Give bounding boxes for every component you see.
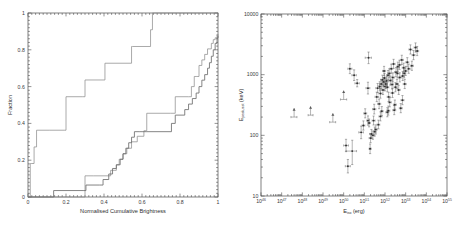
- panel-cumulative-distribution: 00.20.40.60.8100.20.40.60.81Normalised C…: [0, 0, 231, 231]
- svg-text:1049: 1049: [318, 198, 328, 204]
- data-point: [376, 84, 380, 93]
- data-point: [397, 85, 400, 94]
- svg-text:1: 1: [217, 199, 220, 205]
- data-point: [344, 139, 349, 151]
- data-point: [291, 108, 297, 118]
- svg-text:1052: 1052: [380, 198, 390, 204]
- svg-text:1050: 1050: [339, 198, 349, 204]
- data-point: [378, 99, 381, 109]
- svg-text:1055: 1055: [442, 198, 452, 204]
- data-point: [396, 62, 399, 71]
- epeak-eiso-scatter: 1046104710481049105010511052105310541055…: [231, 0, 462, 231]
- cdf-plot: 00.20.40.60.8100.20.40.60.81Normalised C…: [0, 0, 231, 231]
- data-point: [390, 64, 393, 73]
- x-axis-ticks: [261, 14, 447, 196]
- step-curve-2: [28, 36, 218, 197]
- data-point: [345, 159, 350, 172]
- plot-frame: [261, 14, 447, 196]
- svg-text:0: 0: [27, 199, 30, 205]
- data-point: [352, 70, 356, 81]
- data-point: [330, 113, 336, 123]
- x-tick-labels: 1046104710481049105010511052105310541055: [256, 198, 452, 204]
- data-point: [379, 112, 382, 121]
- data-point: [372, 116, 375, 125]
- data-point: [308, 106, 313, 116]
- data-point: [364, 109, 367, 118]
- data-point: [369, 144, 371, 154]
- data-point: [375, 92, 379, 101]
- data-point: [393, 106, 396, 115]
- step-curve-1: [28, 34, 218, 197]
- svg-text:1046: 1046: [256, 198, 266, 204]
- y-tick-labels: 10100100010000: [244, 11, 259, 199]
- svg-text:0.2: 0.2: [18, 157, 25, 163]
- lower-limit-arrow-icon: [331, 113, 334, 116]
- lower-limit-arrow-icon: [309, 106, 312, 109]
- x-tick-labels: 00.20.40.60.81: [27, 199, 220, 205]
- svg-text:10000: 10000: [244, 11, 259, 17]
- data-point: [410, 61, 413, 70]
- data-point: [406, 58, 409, 67]
- svg-text:0: 0: [22, 194, 25, 200]
- svg-text:1048: 1048: [298, 198, 308, 204]
- y-axis-title: Fraction: [7, 95, 13, 115]
- svg-text:0.2: 0.2: [62, 199, 69, 205]
- data-point: [359, 126, 364, 139]
- x-axis-title: Eiso (erg): [343, 208, 365, 216]
- svg-text:0.8: 0.8: [18, 47, 25, 53]
- data-point: [398, 60, 401, 69]
- data-point: [391, 88, 394, 97]
- svg-text:1: 1: [22, 10, 25, 16]
- data-point: [355, 80, 359, 87]
- two-panel-figure: 00.20.40.60.8100.20.40.60.81Normalised C…: [0, 0, 462, 231]
- data-point: [340, 90, 346, 100]
- data-point: [409, 45, 412, 54]
- data-point: [373, 104, 376, 114]
- data-point: [412, 50, 415, 59]
- svg-text:Epeak,rest (keV): Epeak,rest (keV): [238, 89, 246, 122]
- data-point: [381, 107, 384, 116]
- svg-text:1047: 1047: [277, 198, 287, 204]
- data-point: [407, 64, 410, 73]
- svg-text:10: 10: [253, 193, 259, 199]
- svg-text:0.8: 0.8: [176, 199, 183, 205]
- data-point: [392, 59, 395, 68]
- svg-text:1054: 1054: [422, 198, 432, 204]
- data-point: [365, 52, 371, 64]
- data-point: [401, 96, 404, 105]
- data-point: [391, 80, 394, 89]
- y-axis-ticks: [28, 13, 218, 197]
- svg-text:0.4: 0.4: [18, 120, 25, 126]
- data-point: [399, 104, 402, 113]
- svg-text:0.6: 0.6: [138, 199, 145, 205]
- data-point: [383, 66, 386, 75]
- lower-limit-arrow-icon: [342, 90, 345, 93]
- lower-limit-arrow-icon: [293, 108, 296, 111]
- panel-amati-relation: 1046104710481049105010511052105310541055…: [231, 0, 462, 231]
- data-point: [393, 100, 396, 109]
- data-point: [403, 79, 406, 88]
- data-point: [362, 121, 365, 130]
- svg-text:0.4: 0.4: [100, 199, 107, 205]
- data-point: [346, 140, 357, 164]
- y-tick-labels: 00.20.40.60.81: [18, 10, 25, 200]
- svg-text:0.6: 0.6: [18, 84, 25, 90]
- plot-frame: [28, 13, 218, 197]
- svg-text:1000: 1000: [247, 71, 259, 77]
- x-axis-ticks: [28, 13, 218, 197]
- data-point: [348, 64, 352, 74]
- data-point: [377, 120, 380, 129]
- y-axis-title: Epeak,rest (keV): [238, 89, 246, 122]
- data-point: [366, 82, 370, 94]
- svg-text:1051: 1051: [360, 198, 370, 204]
- data-points: [291, 43, 419, 173]
- x-axis-title: Normalised Cumulative Brightness: [80, 208, 166, 214]
- svg-text:1053: 1053: [401, 198, 411, 204]
- y-axis-ticks: [261, 14, 447, 196]
- svg-text:100: 100: [250, 132, 259, 138]
- step-curve-0: [28, 13, 218, 197]
